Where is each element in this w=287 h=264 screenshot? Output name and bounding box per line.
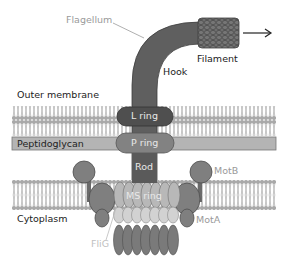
c-ring-lower bbox=[114, 225, 179, 255]
outer-membrane-label: Outer membrane bbox=[17, 90, 99, 100]
l-ring-label: L ring bbox=[131, 111, 158, 121]
right-arrow-icon bbox=[243, 29, 271, 37]
cytoplasm-label: Cytoplasm bbox=[17, 214, 68, 224]
mota-label: MotA bbox=[196, 215, 220, 225]
p-ring-label: P ring bbox=[131, 138, 158, 148]
rod-label: Rod bbox=[135, 162, 153, 172]
filament-label: Filament bbox=[197, 54, 238, 64]
flig-label: FliG bbox=[91, 239, 109, 249]
flagellum-label: Flagellum bbox=[66, 15, 112, 25]
ms-ring-label: MS ring bbox=[126, 191, 162, 201]
flagellum-diagram bbox=[0, 0, 287, 264]
filament bbox=[198, 18, 239, 48]
hook-label: Hook bbox=[163, 67, 187, 77]
motb-label: MotB bbox=[214, 166, 238, 176]
flagellum-leader-line bbox=[113, 23, 144, 38]
c-ring-upper bbox=[114, 207, 179, 223]
peptidoglycan-label: Peptidoglycan bbox=[17, 139, 84, 149]
mota-left bbox=[89, 183, 115, 227]
